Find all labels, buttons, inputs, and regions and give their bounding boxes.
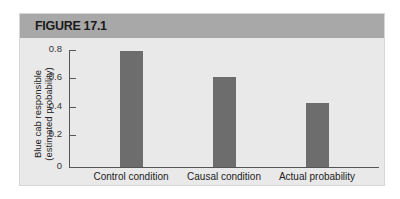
x-axis [69, 167, 379, 168]
x-label-actual-probability: Actual probability [272, 171, 362, 182]
bar-actual-probability [306, 103, 329, 167]
y-tick-0.6 [69, 78, 76, 79]
y-tick-0.2 [69, 135, 76, 136]
y-tick-0.8 [69, 50, 76, 51]
y-axis [69, 50, 70, 167]
bar-causal-condition [213, 77, 236, 167]
y-tick-0.4 [69, 107, 76, 108]
y-tick-label-0.6: 0.6 [42, 71, 62, 82]
y-tick-label-0.2: 0.2 [42, 128, 62, 139]
y-tick-label-0.4: 0.4 [42, 100, 62, 111]
figure-panel: FIGURE 17.1 Blue cab responsible (estima… [19, 13, 385, 186]
y-tick-label-0: 0 [42, 160, 62, 171]
x-label-control-condition: Control condition [86, 171, 176, 182]
bar-chart: Blue cab responsible (estimated probabil… [20, 14, 384, 185]
bar-control-condition [120, 51, 143, 167]
y-tick-label-0.8: 0.8 [42, 43, 62, 54]
x-label-causal-condition: Causal condition [179, 171, 269, 182]
